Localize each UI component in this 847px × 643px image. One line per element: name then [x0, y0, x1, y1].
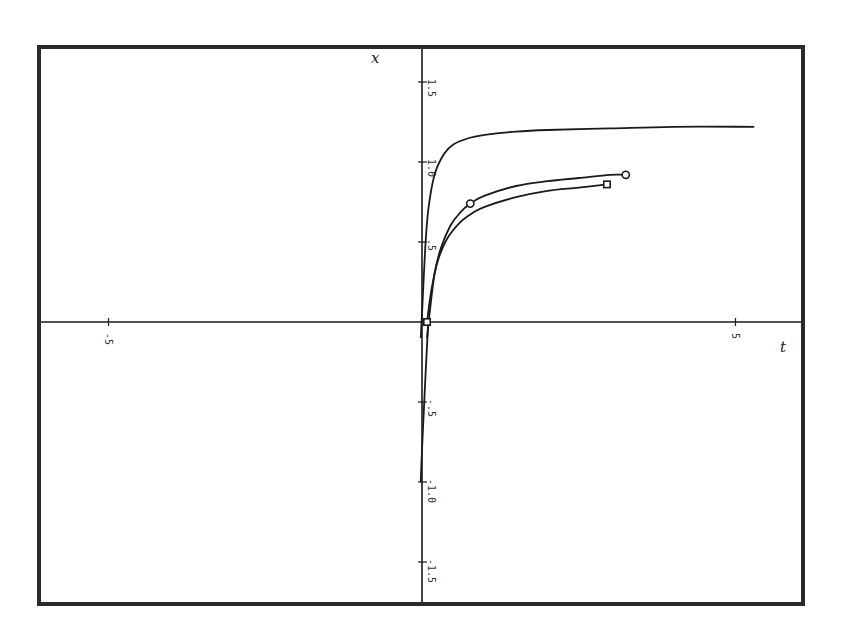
square-marker [604, 181, 610, 187]
x-tick-label: -5 [103, 333, 114, 345]
y-tick-label: 1.5 [426, 79, 437, 97]
y-tick-label: .5 [426, 239, 437, 251]
curve-group [421, 127, 755, 482]
series-line [427, 184, 607, 322]
x-tick-label: 5 [730, 333, 741, 339]
series-line [427, 175, 626, 338]
y-tick-label: -1.5 [426, 559, 437, 583]
square-marker [424, 319, 430, 325]
circle-marker [467, 200, 474, 207]
y-tick-label: -1.0 [426, 479, 437, 503]
chart-canvas: -551.51.0.5-.5-1.0-1.5 x t [0, 0, 847, 643]
x-axis-title: t [780, 338, 787, 356]
y-tick-label: -.5 [426, 399, 437, 417]
y-axis-title: x [371, 49, 380, 67]
circle-marker [622, 171, 629, 178]
series-line [421, 127, 755, 338]
